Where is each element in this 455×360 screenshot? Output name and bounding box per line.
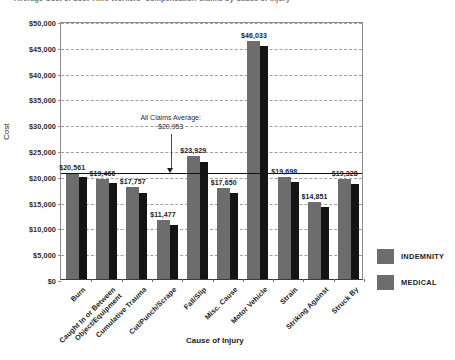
y-axis-tick-mark	[58, 229, 61, 230]
bar-indemnity[interactable]	[247, 41, 260, 279]
bar-indemnity[interactable]	[187, 156, 200, 279]
y-axis-tick-mark	[58, 23, 61, 24]
bar-medical[interactable]	[230, 193, 238, 279]
plot-area: $0$5,000$10,000$15,000$20,000$25,000$30,…	[60, 22, 363, 280]
x-axis-tick-mark	[334, 279, 335, 282]
x-axis-label: Fall/Slip	[182, 285, 208, 311]
bar-medical[interactable]	[79, 177, 87, 279]
y-axis-tick-label: $30,000	[29, 122, 56, 131]
legend-label: MEDICAL	[401, 278, 437, 287]
y-axis-tick-mark	[58, 49, 61, 50]
average-annotation-line1: All Claims Average:	[140, 114, 201, 121]
legend-label: INDEMNITY	[401, 252, 444, 261]
y-axis-tick-mark	[58, 204, 61, 205]
bar-data-label: $19,698	[271, 168, 297, 175]
y-axis-tick-label: $15,000	[29, 199, 56, 208]
x-axis-tick-mark	[182, 279, 183, 282]
bar-data-label: $46,033	[241, 32, 267, 39]
bar-indemnity[interactable]	[308, 202, 321, 279]
bar-medical[interactable]	[139, 193, 147, 279]
bar-indemnity[interactable]	[96, 179, 109, 279]
y-axis-tick-label: $50,000	[29, 19, 56, 28]
average-annotation: All Claims Average: $20,953	[140, 113, 201, 131]
bar-indemnity[interactable]	[126, 187, 139, 279]
average-annotation-line2: $20,953	[158, 123, 183, 130]
bar-data-label: $23,929	[180, 147, 206, 154]
bar-indemnity[interactable]	[157, 220, 170, 279]
x-axis-tick-mark	[273, 279, 274, 282]
bar-indemnity[interactable]	[66, 173, 79, 279]
bar-group: $11,477	[157, 23, 178, 279]
bar-group: $14,851	[308, 23, 329, 279]
bar-medical[interactable]	[321, 207, 329, 279]
bar-medical[interactable]	[260, 46, 268, 279]
y-axis-tick-mark	[58, 152, 61, 153]
bar-indemnity[interactable]	[338, 179, 351, 279]
average-reference-line	[61, 173, 362, 174]
x-axis-tick-mark	[303, 279, 304, 282]
x-axis-tick-mark	[243, 279, 244, 282]
y-axis-tick-mark	[58, 126, 61, 127]
y-axis-tick-label: $35,000	[29, 96, 56, 105]
bar-data-label: $17,650	[211, 179, 237, 186]
bar-group: $19,328	[338, 23, 359, 279]
y-axis-tick-label: $0	[48, 277, 56, 286]
legend-item[interactable]: MEDICAL	[377, 275, 444, 290]
bar-indemnity[interactable]	[278, 177, 291, 279]
x-axis-label: Struck By	[329, 285, 360, 316]
y-axis-tick-mark	[58, 100, 61, 101]
x-axis-tick-mark	[122, 279, 123, 282]
y-axis-tick-label: $45,000	[29, 44, 56, 53]
bar-medical[interactable]	[291, 182, 299, 279]
y-axis-tick-label: $5,000	[33, 251, 56, 260]
y-axis-tick-mark	[58, 75, 61, 76]
legend-item[interactable]: INDEMNITY	[377, 249, 444, 264]
bar-data-label: $14,851	[302, 193, 328, 200]
y-axis-tick-mark	[58, 178, 61, 179]
y-axis-tick-label: $20,000	[29, 173, 56, 182]
y-axis-tick-label: $25,000	[29, 148, 56, 157]
x-axis-tick-mark	[213, 279, 214, 282]
x-axis-tick-mark	[364, 279, 365, 282]
bar-data-label: $17,757	[120, 178, 146, 185]
y-axis-tick-mark	[58, 255, 61, 256]
bar-group: $17,650	[217, 23, 238, 279]
x-axis-tick-mark	[91, 279, 92, 282]
x-axis-tick-mark	[152, 279, 153, 282]
bar-group: $19,466	[96, 23, 117, 279]
bar-group: $23,929	[187, 23, 208, 279]
legend-swatch	[377, 249, 394, 264]
y-axis-title: Cost	[2, 124, 11, 140]
bar-data-label: $20,561	[59, 164, 85, 171]
legend: INDEMNITYMEDICAL	[377, 249, 444, 301]
x-axis-label: Burn	[69, 285, 88, 304]
bar-group: $17,757	[126, 23, 147, 279]
bar-medical[interactable]	[170, 225, 178, 279]
bar-medical[interactable]	[200, 162, 208, 279]
bar-group: $19,698	[278, 23, 299, 279]
x-axis-title: Cause of Injury	[186, 336, 244, 345]
x-axis-label: Strain	[278, 285, 299, 306]
bar-group: $46,033	[247, 23, 268, 279]
chart-page: Average Cost of Lost-Time Workers' Compe…	[0, 0, 455, 360]
bar-data-label: $11,477	[150, 211, 176, 218]
bar-medical[interactable]	[109, 183, 117, 279]
bar-group: $20,561	[66, 23, 87, 279]
y-axis-tick-label: $10,000	[29, 225, 56, 234]
bar-medical[interactable]	[351, 184, 359, 279]
chart-title: Average Cost of Lost-Time Workers' Compe…	[14, 0, 444, 3]
y-axis-tick-mark	[58, 281, 61, 282]
bar-indemnity[interactable]	[217, 188, 230, 279]
y-axis-tick-label: $40,000	[29, 70, 56, 79]
legend-swatch	[377, 275, 394, 290]
